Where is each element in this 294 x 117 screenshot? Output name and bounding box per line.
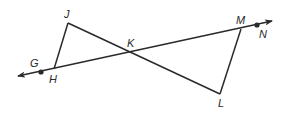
label-g: G [30,57,39,69]
label-m: M [236,14,246,26]
point-g-dot [38,69,43,74]
label-l: L [218,97,224,109]
label-j: J [63,8,70,20]
geometry-diagram: J G H K M N L [0,0,294,117]
label-h: H [49,73,57,85]
segment-hj [54,23,68,69]
segment-lm [220,29,241,94]
point-n-dot [254,22,259,27]
line-gn [18,21,272,76]
label-n: N [259,28,267,40]
label-k: K [127,37,135,49]
segment-jl [68,23,220,94]
